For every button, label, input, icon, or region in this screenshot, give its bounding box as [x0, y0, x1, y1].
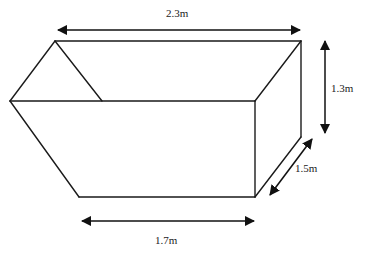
left-slope-edge — [10, 101, 79, 197]
right-top-edge — [255, 41, 301, 101]
skip-diagram: 2.3m 1.3m 1.5m 1.7m — [0, 0, 367, 254]
left-top-edge — [10, 41, 55, 101]
top-length-label: 2.3m — [166, 7, 189, 19]
bottom-length-label: 1.7m — [155, 234, 178, 246]
prism-shape — [10, 41, 301, 197]
height-label: 1.3m — [331, 82, 354, 94]
depth-label: 1.5m — [295, 162, 318, 174]
inner-edge — [55, 41, 102, 101]
